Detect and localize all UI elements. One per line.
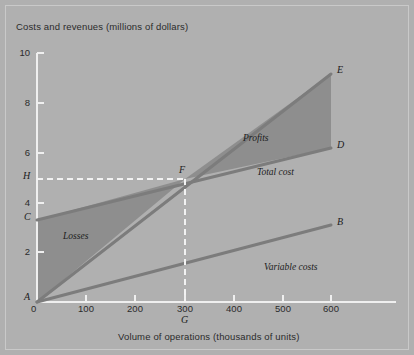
x-tick-label-300: 300 xyxy=(171,303,199,314)
y-tick-label-2: 2 xyxy=(12,246,30,257)
point-label-a: A xyxy=(24,291,30,302)
x-tick-label-600: 600 xyxy=(317,303,345,314)
y-tick-label-4: 4 xyxy=(12,197,30,208)
point-label-g: G xyxy=(181,314,188,325)
line-label-variable-costs: Variable costs xyxy=(264,262,318,272)
x-tick-label-400: 400 xyxy=(220,303,248,314)
point-label-b: B xyxy=(337,216,343,227)
x-tick-label-200: 200 xyxy=(121,303,149,314)
break-even-chart-figure: Costs and revenues (millions of dollars)… xyxy=(0,0,414,355)
point-label-e: E xyxy=(337,64,343,75)
x-tick-label-100: 100 xyxy=(72,303,100,314)
region-label-profits: Profits xyxy=(243,133,269,143)
point-label-c: C xyxy=(24,211,31,222)
y-tick-label-6: 6 xyxy=(12,147,30,158)
point-label-f: F xyxy=(179,164,185,175)
point-label-d: D xyxy=(337,139,344,150)
point-label-h: H xyxy=(23,170,30,181)
y-tick-label-8: 8 xyxy=(12,97,30,108)
plot-area xyxy=(0,0,414,355)
region-label-losses: Losses xyxy=(63,231,88,241)
y-tick-label-10: 10 xyxy=(12,47,30,58)
line-label-total-cost: Total cost xyxy=(257,167,294,177)
y-tick-label-0: 0 xyxy=(31,303,36,314)
x-tick-label-500: 500 xyxy=(269,303,297,314)
